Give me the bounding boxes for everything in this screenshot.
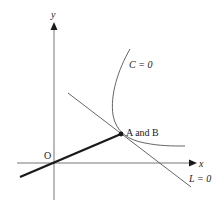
y-axis-arrow-icon [51, 22, 58, 30]
line-label: L = 0 [188, 173, 211, 184]
thick-segment [20, 134, 121, 177]
y-axis-label: y [50, 9, 56, 20]
diagram-canvas: y x O C = 0 L = 0 A and B [0, 0, 224, 212]
line-l [68, 93, 191, 187]
diagram-svg: y x O C = 0 L = 0 A and B [0, 0, 224, 212]
x-axis-label: x [198, 158, 204, 169]
point-label: A and B [126, 127, 159, 138]
x-axis-arrow-icon [189, 160, 197, 167]
curve-label: C = 0 [129, 59, 152, 70]
origin-label: O [44, 150, 51, 161]
point-a-and-b [119, 132, 124, 137]
